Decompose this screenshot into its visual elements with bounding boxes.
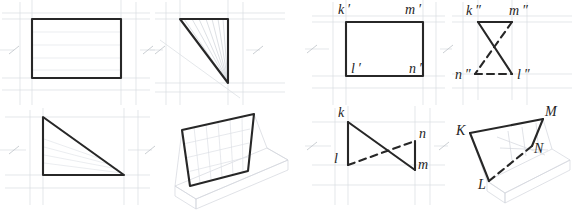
label-k-double-prime: k ″: [466, 4, 481, 18]
label-m-double-prime: m ″: [509, 4, 528, 18]
label-M-uppercase: M: [545, 105, 557, 119]
drawing-canvas: [0, 0, 575, 217]
label-k: k: [338, 106, 344, 120]
label-l-double-prime: l ″: [517, 68, 530, 82]
label-k-prime: k ′: [338, 3, 350, 17]
label-n: n: [419, 127, 426, 141]
label-l-prime: l ′: [351, 62, 361, 76]
label-n-double-prime: n ″: [455, 68, 471, 82]
label-m: m: [418, 158, 428, 172]
label-l: l: [334, 152, 338, 166]
label-N-uppercase: N: [534, 142, 543, 156]
sheet-background: [0, 0, 575, 217]
label-L-uppercase: L: [478, 178, 486, 192]
label-K-uppercase: K: [456, 124, 465, 138]
label-n-prime: n ′: [409, 62, 422, 76]
label-m-prime: m ′: [405, 3, 421, 17]
technical-drawing-sheet: k ′ m ′ l ′ n ′ k ″ m ″ n ″ l ″ k n l m …: [0, 0, 575, 217]
